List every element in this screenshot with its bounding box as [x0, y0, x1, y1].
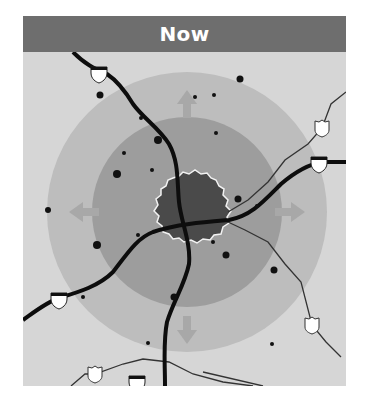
panel-header: Now	[23, 16, 346, 52]
sprawl-map-panel: Now	[23, 16, 346, 386]
us-route-shield-icon	[305, 317, 319, 334]
panel-title: Now	[160, 22, 210, 46]
city-growth-map	[23, 52, 346, 386]
us-route-shield-icon	[88, 366, 102, 383]
interstate-shield-icon	[129, 376, 145, 386]
us-route-shield-icon	[315, 120, 329, 137]
